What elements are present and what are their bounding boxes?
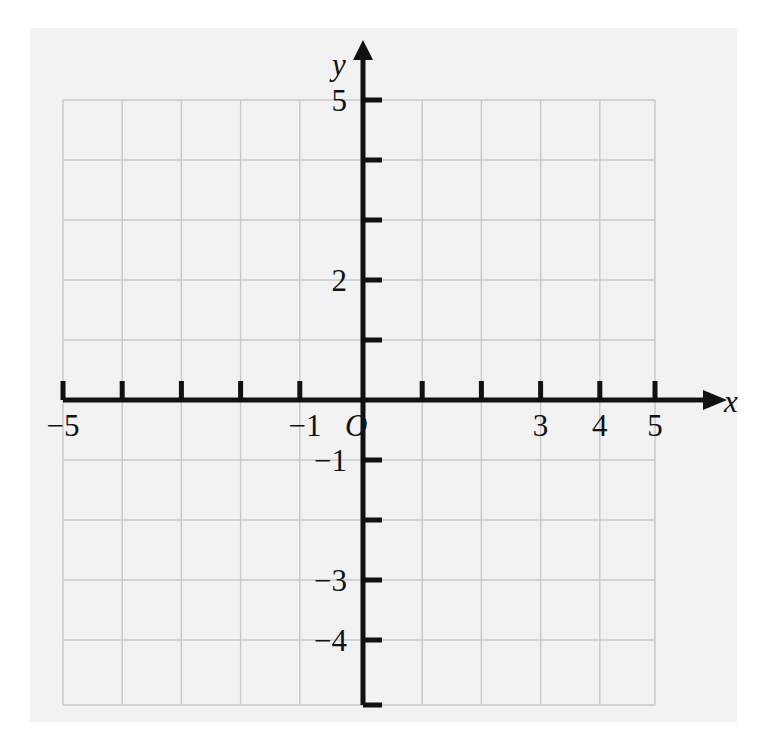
coordinate-grid-svg: −5 −1 3 4 5 5 2 −1 −3 −4 O x y (0, 0, 767, 750)
x-tick-label--1: −1 (289, 408, 322, 443)
y-tick-label-5: 5 (332, 83, 348, 118)
coordinate-plane-figure: −5 −1 3 4 5 5 2 −1 −3 −4 O x y (0, 0, 767, 750)
x-tick-label-5: 5 (647, 408, 663, 443)
y-axis-label: y (329, 47, 346, 82)
y-axis-arrowhead (353, 40, 373, 60)
origin-label: O (345, 408, 367, 443)
y-tick-label-2: 2 (332, 263, 348, 298)
y-tick-label--4: −4 (314, 623, 347, 658)
y-tick-label--3: −3 (314, 563, 347, 598)
x-tick-label-3: 3 (533, 408, 549, 443)
x-axis-label: x (723, 384, 738, 419)
y-tick-label--1: −1 (314, 443, 347, 478)
x-tick-label--5: −5 (47, 408, 80, 443)
x-tick-label-4: 4 (592, 408, 608, 443)
